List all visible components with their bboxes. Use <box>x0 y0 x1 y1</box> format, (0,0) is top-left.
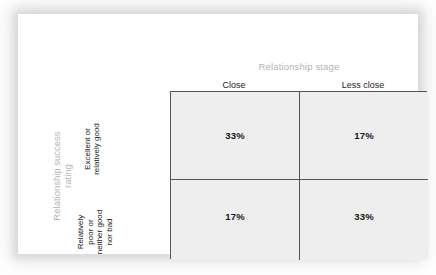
matrix-cell-value: 33% <box>225 130 245 141</box>
row-header-excellent-or-relatively-good: Excellent or relatively good <box>78 106 106 192</box>
figure-card: Relationship stage Close Less close Rela… <box>36 28 400 240</box>
column-header-less-close: Less close <box>298 80 428 90</box>
row-header-1-line-3: neither good <box>95 210 105 254</box>
matrix-cell-less-close-excellent: 17% <box>299 92 428 179</box>
matrix-cell-value: 33% <box>354 211 374 222</box>
matrix-cell-value: 17% <box>225 211 245 222</box>
row-axis-title-line-2: rating <box>62 131 74 220</box>
column-header-close: Close <box>170 80 298 90</box>
row-header-1-line-2: poor or <box>86 210 96 254</box>
quadrant-matrix: 33% 17% 17% 33% <box>170 91 427 259</box>
row-axis-title-line-1: Relationship success <box>51 131 63 220</box>
row-header-0-line-2: relatively good <box>92 123 102 175</box>
column-axis-title: Relationship stage <box>170 61 428 72</box>
row-header-0-line-1: Excellent or <box>83 123 93 175</box>
matrix-cell-close-excellent: 33% <box>171 92 299 179</box>
row-header-relatively-poor-or-neither-good-nor-bad: Relatively poor or neither good nor bad <box>78 189 112 275</box>
matrix-cell-less-close-poor: 33% <box>299 179 428 260</box>
row-header-1-line-1: Relatively <box>76 210 86 254</box>
row-header-1-line-4: nor bad <box>105 210 115 254</box>
matrix-cell-close-poor: 17% <box>171 179 299 260</box>
row-axis-title: Relationship success rating <box>50 116 74 236</box>
matrix-cell-value: 17% <box>354 130 374 141</box>
